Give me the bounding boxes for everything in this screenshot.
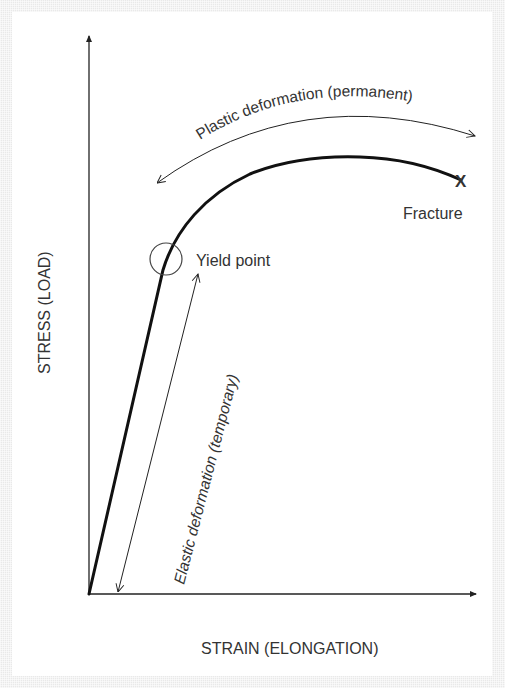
stress-strain-diagram: X Plastic deformation (permanent) Elasti… [0,0,505,688]
y-axis-title: STRESS (LOAD) [36,251,53,374]
elastic-deformation-label: Elastic deformation (temporary) [170,372,241,586]
fracture-label: Fracture [403,205,463,222]
x-axis-title: STRAIN (ELONGATION) [201,640,379,657]
yield-point-label: Yield point [196,252,271,269]
fracture-marker: X [455,172,467,191]
plastic-deformation-label: Plastic deformation (permanent) [193,82,415,142]
stress-strain-curve [89,157,461,594]
